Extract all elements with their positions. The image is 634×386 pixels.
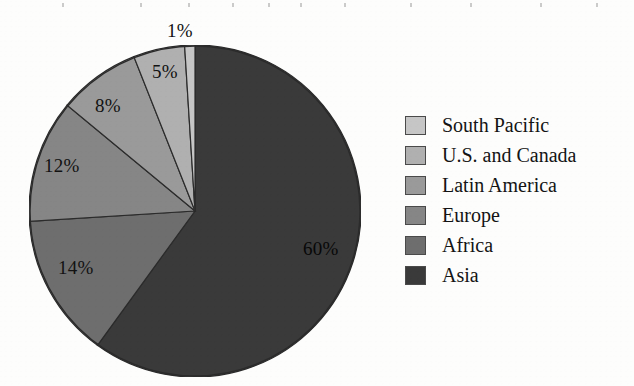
legend-swatch (405, 206, 426, 225)
legend-item-africa[interactable]: Africa (405, 230, 625, 260)
scan-artifact-mark (344, 3, 346, 7)
slice-label-africa: 14% (58, 257, 93, 279)
scan-artifact-mark (232, 3, 234, 7)
legend-item-south-pacific[interactable]: South Pacific (405, 110, 625, 140)
legend-label: Asia (442, 265, 479, 285)
slice-label-asia: 60% (303, 238, 338, 260)
scan-artifact-mark (140, 3, 142, 7)
slice-label-south-pacific: 1% (167, 20, 193, 42)
scan-edge-artifact (0, 0, 634, 9)
scan-artifact-mark (300, 3, 302, 7)
legend-swatch (405, 176, 426, 195)
scan-artifact-mark (188, 3, 190, 7)
legend-swatch (405, 116, 426, 135)
scan-artifact-mark (410, 3, 412, 7)
slice-label-us-canada: 5% (152, 61, 178, 83)
scan-artifact-mark (596, 3, 598, 7)
pie-chart (29, 45, 361, 377)
legend-item-europe[interactable]: Europe (405, 200, 625, 230)
pie-chart-svg (29, 45, 361, 377)
legend-swatch (405, 236, 426, 255)
legend-label: Europe (442, 205, 500, 225)
legend-label: U.S. and Canada (442, 145, 576, 165)
legend-swatch (405, 266, 426, 285)
legend-label: South Pacific (442, 115, 549, 135)
slice-label-europe: 12% (44, 155, 79, 177)
legend-item-asia[interactable]: Asia (405, 260, 625, 290)
legend-swatch (405, 146, 426, 165)
legend-item-u-s-and-canada[interactable]: U.S. and Canada (405, 140, 625, 170)
scan-artifact-mark (470, 3, 472, 7)
scan-artifact-mark (268, 3, 270, 7)
pie-chart-figure: 60% 14% 12% 8% 5% 1% South PacificU.S. a… (0, 0, 634, 386)
chart-legend: South PacificU.S. and CanadaLatin Americ… (405, 110, 625, 290)
legend-label: Latin America (442, 175, 557, 195)
legend-item-latin-america[interactable]: Latin America (405, 170, 625, 200)
legend-label: Africa (442, 235, 493, 255)
scan-artifact-mark (62, 3, 64, 7)
scan-artifact-mark (540, 3, 542, 7)
slice-label-latin-america: 8% (95, 95, 121, 117)
